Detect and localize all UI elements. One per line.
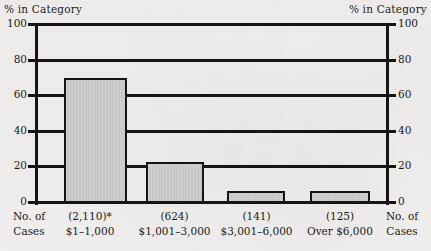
- y-axis-right-line: [386, 23, 389, 205]
- gridline-80: [36, 59, 388, 62]
- category-2-count: (624): [128, 209, 221, 224]
- y-axis-left-line: [35, 23, 38, 205]
- gridline-100: [36, 23, 388, 26]
- tick-left-20: [28, 165, 35, 168]
- category-3-range: $3,001–6,000: [210, 224, 303, 239]
- tick-right-100: [389, 23, 396, 26]
- tick-label-right-60: 60: [398, 89, 426, 99]
- tick-left-100: [28, 23, 35, 26]
- y-axis-caption-left: % in Category: [4, 3, 82, 15]
- category-label-4: (125) Over $6,000: [295, 209, 385, 239]
- tick-label-left-0: 0: [1, 196, 27, 206]
- tick-right-60: [389, 94, 396, 97]
- tick-label-right-40: 40: [398, 125, 426, 135]
- bar-2-texture: [148, 164, 202, 203]
- tick-right-80: [389, 59, 396, 62]
- tick-label-right-0: 0: [398, 196, 426, 206]
- tick-left-80: [28, 59, 35, 62]
- tick-left-60: [28, 94, 35, 97]
- tick-label-left-100: 100: [1, 18, 27, 28]
- plot-area: 100 80 60 40 20 0 100 80 60 40 20 0: [36, 25, 388, 203]
- tick-label-left-40: 40: [1, 125, 27, 135]
- tick-right-20: [389, 165, 396, 168]
- bar-1: [64, 78, 127, 203]
- category-label-2: (624) $1,001–3,000: [128, 209, 221, 239]
- category-label-3: (141) $3,001–6,000: [210, 209, 303, 239]
- y-axis-caption-right: % in Category: [349, 3, 427, 15]
- tick-label-right-100: 100: [398, 18, 426, 28]
- tick-left-40: [28, 130, 35, 133]
- tick-label-left-80: 80: [1, 54, 27, 64]
- category-4-range: Over $6,000: [295, 224, 385, 239]
- tick-label-left-60: 60: [1, 89, 27, 99]
- category-2-range: $1,001–3,000: [128, 224, 221, 239]
- bar-2: [146, 162, 204, 203]
- category-label-1: (2,110)* $1–1,000: [50, 209, 130, 239]
- x-axis-baseline: [35, 201, 389, 204]
- category-1-range: $1–1,000: [50, 224, 130, 239]
- category-4-count: (125): [295, 209, 385, 224]
- bar-1-texture: [66, 80, 125, 203]
- tick-label-left-20: 20: [1, 160, 27, 170]
- category-3-count: (141): [210, 209, 303, 224]
- tick-right-0: [389, 201, 396, 204]
- bar-chart: % in Category % in Category 100 80 60 40…: [0, 0, 431, 251]
- tick-label-right-20: 20: [398, 160, 426, 170]
- category-1-count: (2,110)*: [50, 209, 130, 224]
- tick-right-40: [389, 130, 396, 133]
- tick-label-right-80: 80: [398, 54, 426, 64]
- tick-left-0: [28, 201, 35, 204]
